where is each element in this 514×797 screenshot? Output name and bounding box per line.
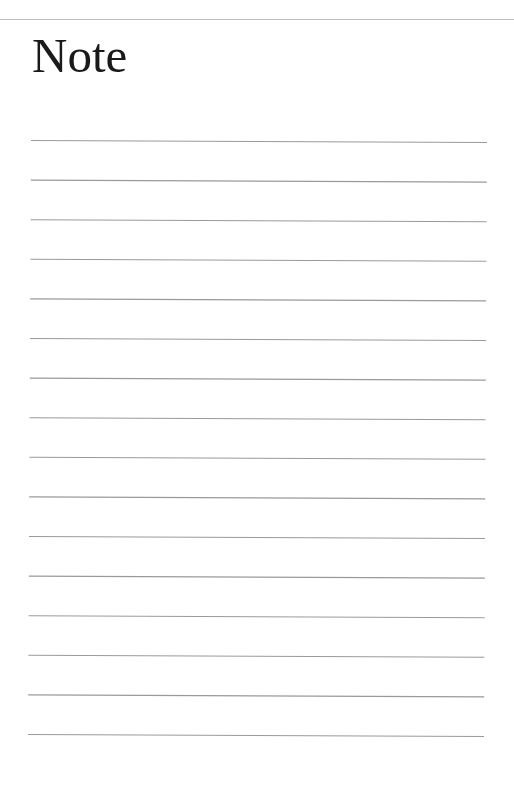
- note-page: Note: [0, 0, 514, 797]
- writing-line: [28, 695, 484, 697]
- writing-line: [31, 141, 487, 143]
- writing-line: [29, 537, 485, 539]
- writing-line: [29, 497, 485, 499]
- writing-line: [31, 220, 487, 222]
- writing-line: [29, 576, 485, 578]
- ruled-lines: [0, 0, 514, 797]
- writing-line: [30, 378, 486, 380]
- writing-line: [31, 180, 487, 182]
- writing-line: [29, 457, 485, 459]
- writing-line: [30, 418, 486, 420]
- writing-line: [28, 735, 484, 737]
- writing-line: [30, 339, 486, 341]
- writing-line: [29, 616, 485, 618]
- writing-line: [30, 299, 486, 301]
- writing-line: [30, 259, 486, 261]
- writing-line: [28, 655, 484, 657]
